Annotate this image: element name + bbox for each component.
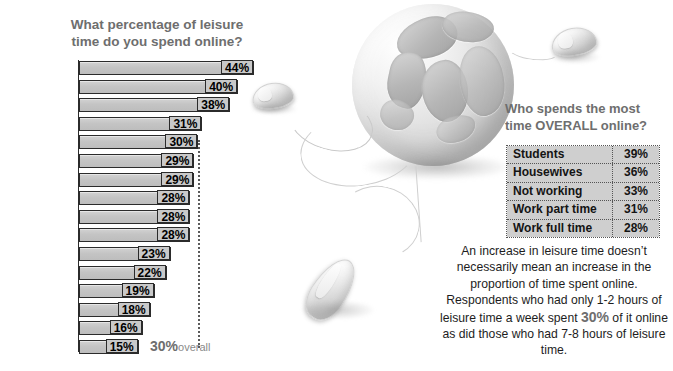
table-cell-value: 31% (613, 201, 659, 218)
bar-value-label: 31% (169, 116, 201, 130)
paragraph-line4: Respondents who had only 1-2 (446, 293, 614, 307)
table-cell-value: 28% (613, 220, 659, 237)
commentary-paragraph: An increase in leisure time doesn’t nece… (440, 243, 668, 359)
table-row: Not working33% (507, 183, 659, 201)
mouse-shadow (549, 50, 601, 64)
overall-suffix: overall (178, 341, 210, 353)
table-cell-value: 36% (613, 164, 659, 181)
mouse-shadow (250, 103, 298, 115)
bar-value-label: 28% (157, 190, 189, 204)
table-row: Students39% (507, 146, 659, 164)
paragraph-line3: proportion of time spent online. (470, 277, 637, 291)
overall-value: 30% (150, 338, 178, 354)
bar-value-label: 15% (106, 339, 138, 353)
table-cell-value: 33% (613, 183, 659, 200)
chart-title-line2: time do you spend online? (46, 33, 268, 50)
table-row: Housewives36% (507, 164, 659, 182)
bar-value-label: 19% (122, 283, 154, 297)
bar-value-label: 23% (138, 246, 170, 260)
table-cell-value: 39% (613, 146, 659, 163)
reference-line (198, 140, 200, 348)
paragraph-line7: had 7-8 hours of leisure time. (537, 327, 665, 357)
table-cell-label: Not working (507, 183, 613, 200)
table-row: Work full time28% (507, 220, 659, 237)
bar-value-label: 29% (161, 172, 193, 186)
infographic-canvas: What percentage of leisure time do you s… (0, 0, 673, 371)
table-cell-label: Work part time (507, 201, 613, 218)
bar-value-label: 22% (134, 265, 166, 279)
table-cell-label: Work full time (507, 220, 613, 237)
chart-title-line1: What percentage of leisure (46, 16, 268, 33)
paragraph-highlight-value: 30% (581, 309, 609, 325)
overall-label: 30%overall (150, 338, 210, 354)
bar-value-label: 38% (197, 97, 229, 111)
bar-value-label: 29% (161, 153, 193, 167)
bar-value-label: 18% (118, 302, 150, 316)
bar-value-label: 16% (110, 320, 142, 334)
bar-value-label: 44% (221, 60, 253, 74)
paragraph-line1: An increase in leisure time doesn’t (461, 244, 647, 258)
panel-title: Who spends the most time OVERALL online? (505, 101, 665, 134)
paragraph-line2: necessarily mean an increase in the (457, 260, 651, 274)
table-cell-label: Housewives (507, 164, 613, 181)
overall-online-table: Students39%Housewives36%Not working33%Wo… (506, 145, 660, 238)
panel-title-line2: time OVERALL online? (505, 118, 665, 135)
chart-title: What percentage of leisure time do you s… (46, 16, 268, 50)
bar-value-label: 28% (157, 209, 189, 223)
bar-value-label: 28% (157, 227, 189, 241)
panel-title-line1: Who spends the most (505, 101, 665, 118)
table-row: Work part time31% (507, 201, 659, 219)
mouse-cord (331, 178, 426, 265)
table-cell-label: Students (507, 146, 613, 163)
mouse-shadow (300, 300, 376, 320)
bar-value-label: 40% (205, 79, 237, 93)
bar-value-label: 30% (165, 134, 197, 148)
